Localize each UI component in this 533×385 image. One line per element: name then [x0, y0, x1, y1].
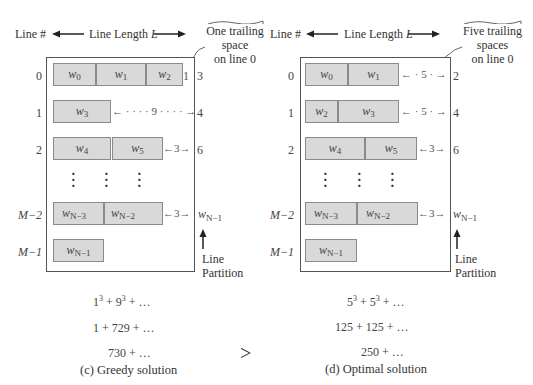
cumulative-value: 6 [197, 143, 203, 158]
trailing-space-count: ←3→ [163, 142, 191, 154]
greater-than-symbol: > [240, 342, 251, 365]
word-box: w5 [365, 137, 417, 160]
cost-equation-total: 730 + … [108, 346, 151, 361]
line-number: M−1 [264, 245, 294, 260]
word-box: w4 [305, 137, 365, 160]
word-box: w0 [53, 63, 96, 86]
word-box: w0 [305, 63, 348, 86]
arrow-right-icon [154, 29, 186, 39]
trailing-space-count: ← · · · · 9 · · · · → [112, 105, 196, 117]
arrow-up-icon [452, 229, 462, 249]
callout-five-trailing-spaces: Five trailing spaces on line 0 [461, 24, 524, 66]
cost-equation-cubes: 13 + 93 + … [93, 294, 151, 310]
line-number-header: Line # [15, 28, 46, 40]
line-length-header: Line Length L [89, 28, 158, 40]
trailing-space-count: ←3→ [418, 142, 446, 154]
partition-word-label: wN−1 [198, 207, 222, 223]
line-number: M−2 [12, 208, 42, 223]
partition-word-label: wN−1 [453, 207, 477, 223]
arrow-left-icon [52, 29, 84, 39]
cumulative-value: 4 [453, 106, 459, 121]
cost-equation-expanded: 1 + 729 + … [93, 321, 155, 336]
trailing-space-count: ← · 5 · → [401, 105, 447, 117]
line-number: 2 [264, 143, 294, 158]
line-number: M−2 [264, 208, 294, 223]
cost-equation-expanded: 125 + 125 + … [335, 320, 409, 335]
word-box: wN−2 [357, 202, 418, 225]
cumulative-value: 6 [453, 143, 459, 158]
line-number-header: Line # [270, 28, 301, 40]
trailing-space-count: ←3→ [163, 207, 191, 219]
cumulative-value: 3 [197, 69, 203, 84]
word-box: w4 [53, 137, 111, 160]
word-box: w2 [146, 63, 183, 86]
arrow-up-icon [198, 229, 208, 249]
line-number: M−1 [12, 245, 42, 260]
line-length-header: Line Length L [344, 28, 413, 40]
line-number: 2 [12, 143, 42, 158]
ellipsis-vertical-icon: ··· [137, 172, 142, 190]
arrow-left-icon [306, 29, 338, 39]
cumulative-value: 2 [453, 69, 459, 84]
word-box: w3 [53, 100, 111, 123]
cost-equation-cubes: 53 + 53 + … [347, 294, 405, 310]
ellipsis-vertical-icon: ··· [104, 172, 109, 190]
arrow-right-icon [408, 29, 440, 39]
cost-equation-total: 250 + … [361, 345, 404, 360]
word-box: w5 [112, 137, 163, 160]
callout-one-trailing-space: One trailing space on line 0 [205, 24, 265, 66]
caption-optimal-solution: (d) Optimal solution [325, 362, 427, 377]
ellipsis-vertical-icon: ··· [71, 172, 76, 190]
line-number: 1 [12, 106, 42, 121]
word-box: w2 [305, 100, 338, 123]
line-number: 0 [12, 69, 42, 84]
word-box: wN−3 [305, 202, 357, 225]
line-number: 1 [264, 106, 294, 121]
trailing-space-count: ←3→ [418, 207, 446, 219]
ellipsis-vertical-icon: ··· [390, 172, 395, 190]
line-number: 0 [264, 69, 294, 84]
line-partition-label: Line Partition [202, 252, 243, 280]
word-box: w1 [96, 63, 146, 86]
trailing-space-count: ← · 5 · → [401, 68, 447, 80]
caption-greedy-solution: (c) Greedy solution [80, 363, 177, 378]
ellipsis-vertical-icon: ··· [357, 172, 362, 190]
trailing-space-count: 1 [183, 69, 189, 84]
word-box: wN−3 [53, 202, 104, 225]
word-box: w1 [348, 63, 399, 86]
word-box: wN−1 [53, 239, 104, 262]
ellipsis-vertical-icon: ··· [323, 172, 328, 190]
cumulative-value: 4 [197, 106, 203, 121]
word-box: wN−1 [305, 239, 357, 262]
word-box: wN−2 [104, 202, 163, 225]
line-partition-label: Line Partition [455, 252, 496, 280]
word-box: w3 [338, 100, 399, 123]
